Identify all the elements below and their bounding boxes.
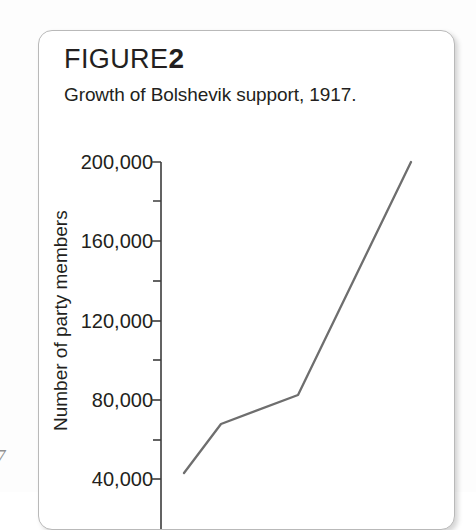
page-folio-fragment: 7 (0, 446, 5, 468)
y-tick-label-40000: 40,000 (92, 468, 153, 490)
chart-svg: Number of party members 200,000 160,000 … (39, 31, 455, 530)
series-line-bolshevik-members (184, 162, 411, 473)
line-chart: Number of party members 200,000 160,000 … (39, 31, 455, 530)
y-tick-label-200000: 200,000 (81, 151, 153, 173)
y-axis-title: Number of party members (50, 210, 71, 431)
y-tick-label-160000: 160,000 (81, 230, 153, 252)
y-tick-label-120000: 120,000 (81, 310, 153, 332)
figure-card: FIGURE2 Growth of Bolshevik support, 191… (38, 30, 455, 530)
y-tick-label-80000: 80,000 (92, 389, 153, 411)
